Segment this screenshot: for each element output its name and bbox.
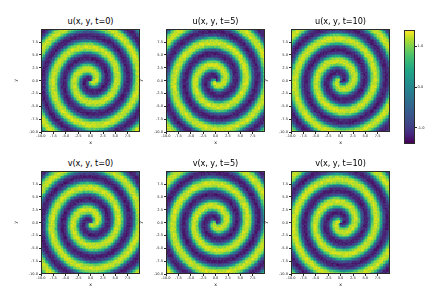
x-axis-label: x xyxy=(41,282,140,287)
y-tick-label: 7.5 xyxy=(20,182,38,186)
heatmap-axes xyxy=(41,171,140,274)
y-tick-mark xyxy=(164,106,166,107)
spiral-field-image xyxy=(292,30,389,131)
y-tick-mark xyxy=(164,119,166,120)
y-tick-label: -10.0 xyxy=(270,272,288,276)
y-tick-mark xyxy=(164,235,166,236)
colorbar-tick-mark xyxy=(415,87,417,88)
y-tick-label: 0.0 xyxy=(20,221,38,225)
y-tick-mark xyxy=(289,119,291,120)
y-tick-label: 7.5 xyxy=(20,40,38,44)
y-tick-label: 0.0 xyxy=(145,221,163,225)
heatmap-axes xyxy=(291,171,390,274)
y-tick-label: 5.0 xyxy=(20,53,38,57)
y-tick-mark xyxy=(39,235,41,236)
y-tick-mark xyxy=(289,222,291,223)
y-tick-mark xyxy=(164,67,166,68)
y-tick-mark xyxy=(289,80,291,81)
y-tick-label: -2.5 xyxy=(20,233,38,237)
y-tick-label: 0.0 xyxy=(270,221,288,225)
y-tick-mark xyxy=(39,93,41,94)
y-tick-label: -10.0 xyxy=(20,272,38,276)
spiral-field-image xyxy=(42,30,139,131)
y-tick-mark xyxy=(39,132,41,133)
y-tick-mark xyxy=(164,93,166,94)
x-axis-label: x xyxy=(166,282,265,287)
spiral-field-image xyxy=(167,172,264,273)
y-tick-label: 0.0 xyxy=(145,79,163,83)
y-axis-label: y xyxy=(263,215,268,229)
y-tick-mark xyxy=(164,222,166,223)
y-tick-label: 7.5 xyxy=(270,182,288,186)
panel-title: u(x, y, t=10) xyxy=(291,16,390,26)
panel-title: v(x, y, t=0) xyxy=(41,158,140,168)
colorbar-tick-label: -1.0 xyxy=(418,126,425,130)
y-tick-label: -10.0 xyxy=(145,130,163,134)
panel-title: v(x, y, t=10) xyxy=(291,158,390,168)
y-tick-mark xyxy=(289,235,291,236)
y-tick-label: 5.0 xyxy=(270,195,288,199)
figure-canvas: u(x, y, t=0)-10.0-7.5-5.0-2.50.02.55.07.… xyxy=(0,0,438,305)
y-tick-mark xyxy=(164,274,166,275)
y-tick-label: 7.5 xyxy=(270,40,288,44)
spiral-field-image xyxy=(42,172,139,273)
y-tick-label: 5.0 xyxy=(145,195,163,199)
colorbar xyxy=(404,30,415,144)
y-tick-label: 5.0 xyxy=(145,53,163,57)
y-tick-mark xyxy=(164,248,166,249)
y-tick-mark xyxy=(289,196,291,197)
y-tick-label: 5.0 xyxy=(270,53,288,57)
colorbar-tick-label: 1.0 xyxy=(418,44,424,48)
x-tick-label: 7.5 xyxy=(369,276,387,280)
y-tick-mark xyxy=(289,106,291,107)
y-tick-mark xyxy=(289,248,291,249)
heatmap-axes xyxy=(41,29,140,132)
panel-v-t0: v(x, y, t=0)-10.0-7.5-5.0-2.50.02.55.07.… xyxy=(3,158,140,294)
y-tick-label: -7.5 xyxy=(145,117,163,121)
y-tick-label: 2.5 xyxy=(145,208,163,212)
y-tick-mark xyxy=(289,54,291,55)
y-tick-mark xyxy=(289,132,291,133)
y-tick-mark xyxy=(289,67,291,68)
y-tick-label: 2.5 xyxy=(145,66,163,70)
heatmap-axes xyxy=(166,171,265,274)
colorbar-gradient xyxy=(404,30,415,144)
y-tick-label: 0.0 xyxy=(20,79,38,83)
y-tick-mark xyxy=(39,222,41,223)
y-tick-mark xyxy=(289,184,291,185)
y-tick-mark xyxy=(39,209,41,210)
y-tick-mark xyxy=(164,209,166,210)
y-axis-label: y xyxy=(138,215,143,229)
y-tick-label: 7.5 xyxy=(145,40,163,44)
colorbar-tick-label: 0.0 xyxy=(418,85,424,89)
panel-u-t5: u(x, y, t=5)-10.0-7.5-5.0-2.50.02.55.07.… xyxy=(128,16,265,152)
y-tick-label: -7.5 xyxy=(270,259,288,263)
y-tick-label: -7.5 xyxy=(20,259,38,263)
spiral-field-image xyxy=(167,30,264,131)
y-tick-label: -7.5 xyxy=(145,259,163,263)
spiral-field-image xyxy=(292,172,389,273)
y-tick-mark xyxy=(289,261,291,262)
panel-title: u(x, y, t=5) xyxy=(166,16,265,26)
heatmap-axes xyxy=(166,29,265,132)
panel-v-t5: v(x, y, t=5)-10.0-7.5-5.0-2.50.02.55.07.… xyxy=(128,158,265,294)
y-axis-label: y xyxy=(13,215,18,229)
x-tick-label: 7.5 xyxy=(369,134,387,138)
y-tick-label: -5.0 xyxy=(270,104,288,108)
panel-u-t10: u(x, y, t=10)-10.0-7.5-5.0-2.50.02.55.07… xyxy=(253,16,390,152)
y-tick-mark xyxy=(289,274,291,275)
y-tick-label: -2.5 xyxy=(270,233,288,237)
x-axis-label: x xyxy=(291,140,390,145)
colorbar-tick-mark xyxy=(415,127,417,128)
y-tick-mark xyxy=(289,42,291,43)
y-tick-mark xyxy=(164,261,166,262)
y-tick-mark xyxy=(39,106,41,107)
y-tick-mark xyxy=(39,42,41,43)
y-tick-mark xyxy=(39,248,41,249)
y-tick-label: -7.5 xyxy=(270,117,288,121)
y-tick-label: -5.0 xyxy=(145,246,163,250)
panel-title: v(x, y, t=5) xyxy=(166,158,265,168)
y-tick-label: -5.0 xyxy=(270,246,288,250)
x-axis-label: x xyxy=(291,282,390,287)
y-tick-label: 2.5 xyxy=(20,208,38,212)
